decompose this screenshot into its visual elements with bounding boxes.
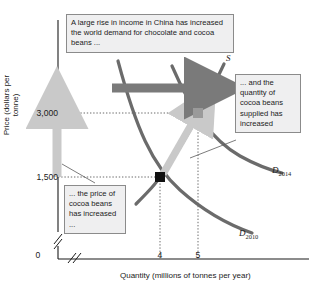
equilibrium-point-new: [193, 108, 203, 118]
quantity-supplied-arrow: [163, 120, 194, 174]
leader-line-price-callout: [62, 164, 95, 183]
supply-demand-figure: Price (dollars per tonne) Quantity (mill…: [0, 0, 313, 288]
callout-demand-shift: A large rise in income in China has incr…: [66, 14, 234, 53]
callout-price-rise: ... the price of cocoa beans has increas…: [64, 185, 126, 234]
demand-2010-year: 2010: [246, 233, 259, 240]
y-axis-title: Price (dollars per tonne): [2, 65, 20, 145]
x-axis-break-icon: [68, 253, 81, 263]
y-tick-label-1500: 1,500: [16, 172, 58, 182]
demand-2014-curve-label: D2014: [272, 165, 291, 177]
equilibrium-point-initial: [155, 172, 165, 182]
x-tick-label-5: 5: [190, 250, 206, 260]
x-axis-title: Quantity (millions of tonnes per year): [120, 271, 251, 280]
callout-quantity-supplied: ... and the quantity of cocoa beans supp…: [235, 74, 301, 133]
y-tick-label-3000: 3,000: [16, 108, 58, 118]
x-tick-label-4: 4: [152, 250, 168, 260]
demand-2010-curve-label: D2010: [239, 228, 258, 240]
supply-curve-label: S: [226, 53, 231, 63]
origin-label: 0: [30, 250, 46, 260]
demand-2014-year: 2014: [279, 170, 292, 177]
